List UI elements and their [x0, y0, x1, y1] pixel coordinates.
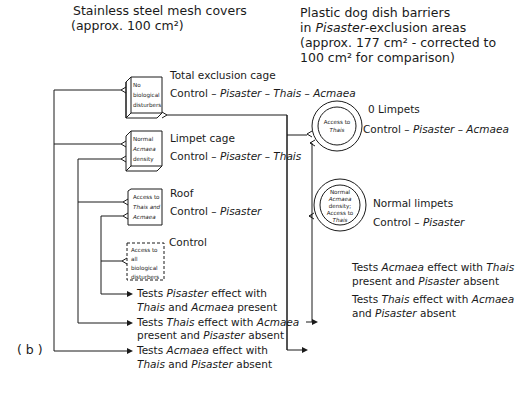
test-acmaea-effect-thais-present: Tests Acmaea effect with Thais present a… [351, 261, 515, 287]
svg-text:Acmaea: Acmaea [132, 146, 156, 152]
arrow-icon [127, 291, 133, 297]
svg-text:Acmaea: Acmaea [328, 196, 352, 202]
svg-text:biological: biological [131, 265, 158, 272]
header-mesh-line2: (approx. 100 cm²) [71, 18, 184, 33]
svg-text:density;: density; [329, 203, 352, 210]
limpet-cage-box: Normal Acmaea density [126, 131, 162, 171]
svg-text:Thais and Pisaster absent: Thais and Pisaster absent [137, 358, 272, 370]
limpet-cage-control: Control – Pisaster – Thais [170, 150, 302, 162]
svg-text:Access to: Access to [131, 247, 158, 253]
svg-text:Access to: Access to [324, 119, 351, 125]
svg-text:biological: biological [133, 92, 160, 99]
test-thais-effect-acmaea-present: Tests Thais effect with Acmaea present a… [136, 316, 299, 341]
roof-control: Control – Pisaster [170, 205, 262, 217]
svg-text:present and Pisaster absent: present and Pisaster absent [137, 329, 284, 341]
arrow-icon [127, 348, 133, 354]
svg-text:Tests Pisaster effect with: Tests Pisaster effect with [136, 287, 267, 299]
normal-limpets-title: Normal limpets [373, 197, 453, 209]
svg-text:Thais: Thais [330, 127, 345, 133]
svg-text:Tests Acmaea effect with Thais: Tests Acmaea effect with Thais [351, 261, 515, 273]
limpet-cage-title: Limpet cage [170, 132, 235, 144]
normal-limpets-dish: Normal Acmaea density; Access to Thais [314, 179, 366, 231]
arrow-icon [312, 319, 318, 325]
svg-text:present and Pisaster absent: present and Pisaster absent [352, 275, 499, 287]
svg-text:Tests Acmaea effect with: Tests Acmaea effect with [136, 344, 268, 356]
svg-text:Tests Thais effect with Acmaea: Tests Thais effect with Acmaea [351, 293, 514, 305]
svg-text:density: density [133, 156, 154, 163]
roof-box: Access to Thais and Acmaea [128, 189, 162, 225]
svg-text:Access to: Access to [133, 194, 160, 200]
svg-text:all: all [131, 256, 138, 262]
svg-text:disturbers: disturbers [131, 274, 159, 280]
svg-text:Normal: Normal [330, 189, 351, 195]
zero-limpets-title: 0 Limpets [368, 103, 420, 115]
control-title: Control [169, 236, 207, 248]
svg-text:Tests Thais effect with Acmaea: Tests Thais effect with Acmaea [136, 316, 299, 328]
svg-text:Thais: Thais [333, 217, 348, 223]
svg-text:and Pisaster absent: and Pisaster absent [352, 307, 456, 319]
svg-text:Thais and Acmaea present: Thais and Acmaea present [137, 301, 277, 313]
roof-title: Roof [170, 187, 194, 199]
header-dish-line2: in Pisaster-exclusion areas [300, 20, 466, 35]
experimental-design-diagram: Stainless steel mesh covers (approx. 100… [0, 0, 524, 393]
header-mesh-line1: Stainless steel mesh covers [73, 3, 247, 18]
total-exclusion-cage-box: No biological disturbers [126, 77, 162, 118]
svg-text:Normal: Normal [133, 136, 154, 142]
header-mesh-covers: Stainless steel mesh covers (approx. 100… [71, 3, 247, 33]
svg-text:Acmaea: Acmaea [132, 214, 156, 220]
total-exclusion-cage-title: Total exclusion cage [169, 69, 276, 81]
svg-text:Access to: Access to [327, 210, 354, 216]
control-box: Access to all biological disturbers [127, 243, 164, 280]
zero-limpets-dish: Access to Thais [312, 101, 362, 151]
arrow-icon [127, 320, 133, 326]
arrow-icon [302, 347, 308, 353]
total-exclusion-cage-control: Control – Pisaster – Thais – Acmaea [170, 87, 356, 99]
header-dish-line4: 100 cm² for comparison) [300, 50, 455, 65]
svg-text:Thais and: Thais and [133, 204, 161, 210]
svg-text:disturbers: disturbers [133, 102, 161, 108]
test-pisaster-effect: Tests Pisaster effect with Thais and Acm… [136, 287, 277, 313]
panel-label: ( b ) [17, 342, 43, 357]
svg-text:No: No [133, 82, 141, 88]
header-dish-line3: (approx. 177 cm² - corrected to [300, 35, 496, 50]
normal-limpets-control: Control – Pisaster [373, 216, 465, 228]
header-dog-dish-barriers: Plastic dog dish barriers in Pisaster-ex… [300, 5, 496, 65]
header-dish-line1: Plastic dog dish barriers [300, 5, 450, 20]
zero-limpets-control: Control – Pisaster – Acmaea [363, 123, 509, 135]
test-thais-effect-both-absent: Tests Thais effect with Acmaea and Pisas… [351, 293, 514, 319]
test-acmaea-effect-both-absent: Tests Acmaea effect with Thais and Pisas… [136, 344, 272, 370]
